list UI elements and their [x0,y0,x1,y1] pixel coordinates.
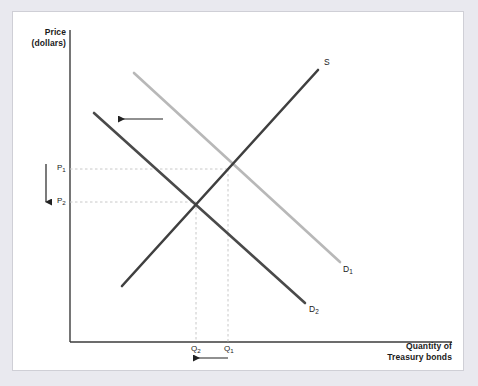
price-label-p1: P1 [57,163,66,172]
annotation-arrows-group [46,119,228,358]
y-axis-title-line2: (dollars) [32,38,66,48]
supply-curve-label: S [324,57,330,67]
quantity-label-q1: Q1 [224,344,234,353]
supply-curve [122,70,318,286]
x-axis-title: Quantity ofTreasury bonds [330,341,452,363]
demand2-curve-label: D2 [309,304,319,314]
supply-curve-label-text: S [324,57,330,67]
demand1-curve-label-subscript: 1 [349,268,353,275]
demand1-curve-label: D1 [343,264,353,274]
quantity-label-q2: Q2 [191,344,201,353]
price-label-p1-subscript: 1 [62,166,65,173]
y-axis-title-line1: Price [45,27,66,37]
price-label-p2: P2 [57,196,66,205]
demand1-curve [134,73,340,262]
x-axis-title-line2: Treasury bonds [387,352,452,362]
x-axis-title-line1: Quantity of [406,341,452,351]
demand2-curve [94,113,305,303]
axes-group [70,30,452,342]
quantity-label-q2-subscript: 2 [197,347,200,354]
y-axis-title: Price(dollars) [28,27,66,49]
figure-page: Price(dollars) Quantity ofTreasury bonds… [0,0,478,386]
curves-group [94,70,340,303]
demand2-curve-label-subscript: 2 [315,308,319,315]
price-label-p2-subscript: 2 [62,199,65,206]
supply-demand-chart [0,0,478,386]
quantity-label-q1-subscript: 1 [230,347,233,354]
